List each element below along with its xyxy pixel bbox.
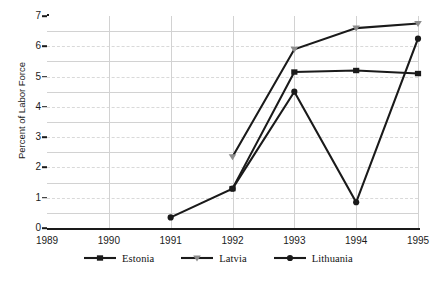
series-line-lithuania	[171, 39, 418, 218]
data-point-marker	[97, 255, 103, 260]
y-axis-title: Percent of Labor Force	[16, 41, 27, 181]
legend-label: Estonia	[122, 253, 154, 264]
y-axis-tick-label: 2	[35, 162, 41, 172]
data-point-marker	[291, 69, 297, 74]
y-axis-tick-label: 5	[35, 72, 41, 82]
y-axis-tick-label: 0	[35, 223, 41, 233]
chart-legend: EstoniaLatviaLithuania	[0, 252, 436, 264]
x-axis-tick-label: 1990	[98, 236, 120, 246]
data-point-marker	[353, 68, 359, 73]
y-axis-tick-label: 1	[35, 193, 41, 203]
series-line-estonia	[233, 71, 419, 189]
x-axis-tick-label: 1991	[160, 236, 182, 246]
series-layer	[47, 16, 418, 228]
y-axis-tick-label: 3	[35, 132, 41, 142]
data-point-marker	[291, 47, 299, 53]
x-axis-tick-label: 1994	[345, 236, 367, 246]
data-point-marker	[353, 199, 359, 205]
legend-item-estonia[interactable]: Estonia	[83, 252, 154, 264]
legend-swatch-triangle-down-icon	[180, 252, 214, 264]
x-axis-line	[47, 228, 420, 230]
chart-figure: Percent of Labor Force 01234567 19891990…	[0, 0, 436, 281]
data-point-marker	[415, 71, 421, 76]
data-point-marker	[168, 214, 174, 220]
y-axis-tick-label: 7	[35, 11, 41, 21]
x-axis-tick-label: 1995	[407, 236, 429, 246]
y-axis-tick-label: 6	[35, 41, 41, 51]
legend-label: Latvia	[219, 253, 246, 264]
data-point-marker	[415, 36, 421, 42]
x-axis-tick-label: 1993	[283, 236, 305, 246]
legend-item-latvia[interactable]: Latvia	[180, 252, 246, 264]
legend-item-lithuania[interactable]: Lithuania	[273, 252, 353, 264]
y-axis-tick-label: 4	[35, 102, 41, 112]
data-point-marker	[287, 255, 293, 261]
plot-area: 01234567 1989199019911992199319941995	[47, 16, 418, 228]
legend-swatch-circle-icon	[273, 252, 307, 264]
data-point-marker	[229, 154, 237, 160]
gridline-vertical	[418, 16, 419, 228]
x-axis-tick-label: 1989	[36, 236, 58, 246]
legend-label: Lithuania	[312, 253, 353, 264]
legend-swatch-square-icon	[83, 252, 117, 264]
data-point-marker	[229, 186, 235, 192]
data-point-marker	[291, 89, 297, 95]
x-axis-tick-label: 1992	[221, 236, 243, 246]
